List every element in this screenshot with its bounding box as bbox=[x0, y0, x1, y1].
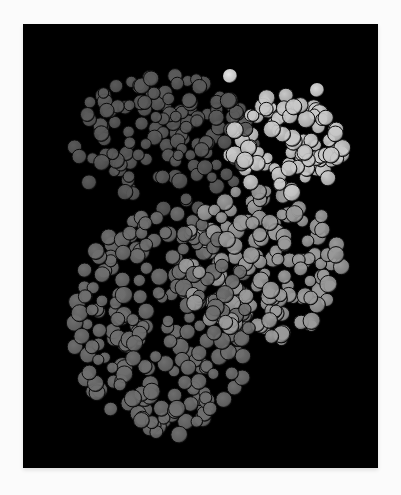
atom-sphere bbox=[92, 323, 106, 337]
atom-sphere bbox=[216, 212, 228, 224]
atom-sphere bbox=[123, 126, 135, 138]
atom-sphere bbox=[328, 247, 345, 264]
atom-sphere bbox=[284, 184, 301, 201]
atom-sphere bbox=[85, 340, 99, 354]
atom-sphere bbox=[286, 99, 302, 115]
atom-sphere bbox=[191, 416, 202, 427]
atom-sphere bbox=[181, 360, 196, 375]
atom-sphere bbox=[180, 193, 192, 205]
atom-sphere bbox=[323, 147, 339, 163]
atom-sphere bbox=[123, 171, 135, 183]
atom-sphere bbox=[265, 330, 279, 344]
atom-sphere bbox=[163, 93, 175, 105]
atom-sphere bbox=[215, 259, 229, 273]
atom-sphere bbox=[82, 365, 97, 380]
atom-sphere bbox=[138, 303, 154, 319]
atom-sphere bbox=[139, 217, 152, 230]
atom-sphere bbox=[304, 291, 318, 305]
atom-sphere bbox=[88, 243, 105, 260]
atom-sphere bbox=[135, 117, 148, 130]
atom-sphere bbox=[192, 79, 207, 94]
atom-sphere bbox=[156, 170, 170, 184]
atom-sphere bbox=[177, 226, 192, 241]
atom-sphere bbox=[239, 303, 251, 315]
atom-sphere bbox=[124, 137, 136, 149]
atom-sphere bbox=[143, 383, 160, 400]
atom-sphere bbox=[237, 152, 254, 169]
atom-sphere bbox=[115, 286, 132, 303]
atom-sphere bbox=[127, 336, 143, 352]
atom-sphere bbox=[171, 426, 188, 443]
atom-sphere bbox=[315, 210, 328, 223]
atom-sphere bbox=[278, 236, 292, 250]
atom-sphere bbox=[180, 324, 195, 339]
atom-sphere bbox=[163, 335, 177, 349]
atom-sphere bbox=[152, 287, 165, 300]
atom-sphere bbox=[86, 304, 98, 316]
atom-sphere bbox=[216, 392, 232, 408]
atom-sphere bbox=[162, 315, 173, 326]
atom-sphere bbox=[72, 149, 87, 164]
atom-sphere bbox=[259, 102, 273, 116]
atom-sphere bbox=[219, 315, 233, 329]
atom-sphere bbox=[171, 77, 184, 90]
atom-sphere bbox=[78, 290, 91, 303]
atom-sphere bbox=[191, 115, 204, 128]
atom-sphere bbox=[294, 262, 308, 276]
atom-sphere bbox=[130, 249, 146, 265]
bright-atom-top bbox=[223, 69, 237, 83]
atom-sphere bbox=[133, 274, 145, 286]
atom-sphere bbox=[140, 139, 151, 150]
atom-sphere bbox=[278, 270, 292, 284]
atom-sphere bbox=[123, 226, 137, 240]
atom-sphere bbox=[134, 413, 150, 429]
atom-sphere bbox=[110, 80, 123, 93]
atom-sphere bbox=[239, 289, 254, 304]
atom-sphere bbox=[114, 379, 126, 391]
atom-sphere bbox=[104, 402, 118, 416]
atom-sphere bbox=[124, 100, 135, 111]
atom-sphere bbox=[203, 402, 217, 416]
atom-sphere bbox=[226, 122, 243, 139]
atom-sphere bbox=[172, 173, 188, 189]
bright-atom-upper-right bbox=[310, 83, 324, 97]
atom-sphere bbox=[303, 312, 320, 329]
atom-sphere bbox=[124, 390, 141, 407]
atom-sphere bbox=[178, 243, 190, 255]
atom-sphere bbox=[220, 168, 233, 181]
atom-sphere bbox=[205, 306, 220, 321]
atom-sphere bbox=[235, 349, 251, 365]
atom-sphere bbox=[207, 172, 217, 182]
atom-sphere bbox=[93, 354, 104, 365]
atom-sphere bbox=[220, 92, 236, 108]
atom-sphere bbox=[82, 175, 97, 190]
atom-sphere bbox=[144, 71, 159, 86]
atom-sphere bbox=[281, 161, 297, 177]
atom-sphere bbox=[191, 374, 207, 390]
atom-sphere bbox=[302, 235, 314, 247]
atom-sphere bbox=[117, 184, 133, 200]
atom-sphere bbox=[304, 275, 316, 287]
atom-sphere bbox=[318, 110, 333, 125]
atom-sphere bbox=[208, 368, 219, 379]
atom-sphere bbox=[94, 267, 110, 283]
atom-sphere bbox=[274, 178, 286, 190]
atom-sphere bbox=[77, 263, 91, 277]
atom-sphere bbox=[192, 346, 207, 361]
atom-sphere bbox=[140, 262, 152, 274]
atom-sphere bbox=[243, 174, 259, 190]
atom-sphere bbox=[219, 231, 236, 248]
atom-sphere bbox=[297, 145, 313, 161]
atom-sphere bbox=[173, 150, 183, 160]
atom-sphere bbox=[263, 121, 280, 138]
atom-sphere bbox=[248, 110, 259, 121]
atom-sphere bbox=[209, 110, 224, 125]
atom-sphere bbox=[230, 186, 241, 197]
atom-sphere bbox=[96, 295, 108, 307]
atom-sphere bbox=[116, 245, 131, 260]
atom-sphere bbox=[126, 351, 142, 367]
atom-sphere bbox=[207, 325, 222, 340]
atom-sphere bbox=[169, 400, 186, 417]
atom-sphere bbox=[193, 266, 206, 279]
atom-sphere bbox=[262, 313, 278, 329]
